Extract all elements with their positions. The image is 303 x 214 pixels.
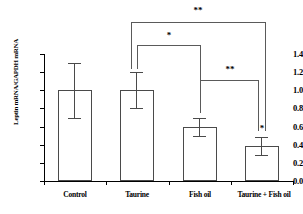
y-tick-mark [40, 54, 44, 55]
bar-chart-figure: Leptin mRNA/GAPDH mRNA 1.4 1.2 1.0 0.8 0… [0, 0, 303, 214]
sig-star-taurine-fish-oil: * [244, 124, 280, 133]
y-tick-label: 1.4 [263, 50, 303, 58]
x-tick-mark [106, 181, 107, 185]
sig-label: ** [170, 6, 226, 15]
x-tick-mark [44, 181, 45, 185]
y-tick-mark [40, 108, 44, 109]
sig-label: ** [202, 65, 258, 74]
y-tick-label: 0.8 [263, 104, 303, 112]
y-tick-label: 1.0 [263, 86, 303, 94]
y-tick-mark [40, 90, 44, 91]
x-tick-mark [169, 181, 170, 185]
y-tick-mark [40, 127, 44, 128]
x-tick-mark [231, 181, 232, 185]
x-category-label-control: Control [44, 190, 106, 199]
bar-taurine [120, 90, 154, 181]
sig-label: * [141, 31, 197, 40]
bar-taurine-fish-oil [245, 146, 279, 181]
y-axis-line [44, 54, 45, 182]
y-tick-mark [40, 72, 44, 73]
bar-control [58, 90, 92, 181]
y-tick-mark [40, 163, 44, 164]
x-tick-mark [293, 181, 294, 185]
y-tick-mark [40, 145, 44, 146]
y-tick-label: 1.2 [263, 68, 303, 76]
y-axis-title: Leptin mRNA/GAPDH mRNA [12, 22, 20, 142]
x-category-label-fish-oil: Fish oil [169, 190, 231, 199]
x-category-label-taurine: Taurine [106, 190, 168, 199]
x-category-label-taurine-fish-oil: Taurine + Fish oil [227, 190, 301, 199]
